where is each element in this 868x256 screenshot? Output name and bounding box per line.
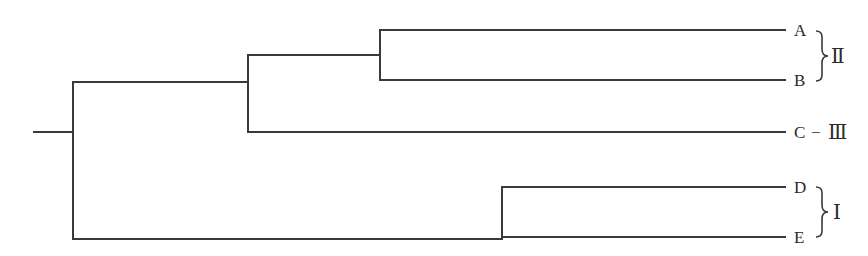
group-label-ii: Ⅱ (831, 45, 845, 67)
leaf-label-a: A (794, 21, 807, 40)
dendrogram: A B C D E Ⅱ − Ⅲ Ⅰ (0, 0, 868, 256)
group-connector-iii: − (811, 123, 821, 142)
group-label-i: Ⅰ (833, 201, 841, 223)
brace-group-ii (816, 31, 828, 81)
leaf-label-e: E (794, 228, 804, 247)
leaf-label-c: C (794, 123, 805, 142)
leaf-label-d: D (794, 178, 806, 197)
brace-group-i (816, 187, 828, 237)
leaf-label-b: B (794, 71, 805, 90)
group-label-iii: Ⅲ (828, 121, 847, 143)
